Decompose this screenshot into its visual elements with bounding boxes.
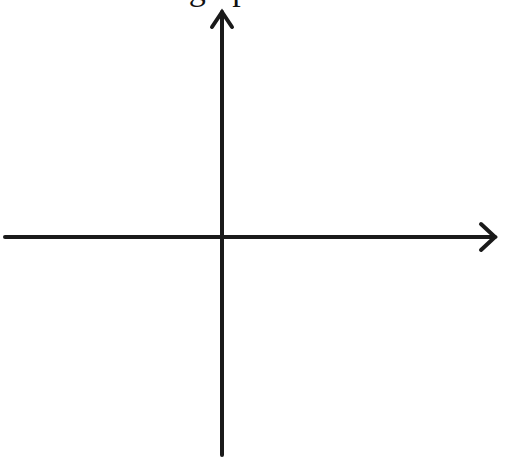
coordinate-axes <box>0 0 525 460</box>
